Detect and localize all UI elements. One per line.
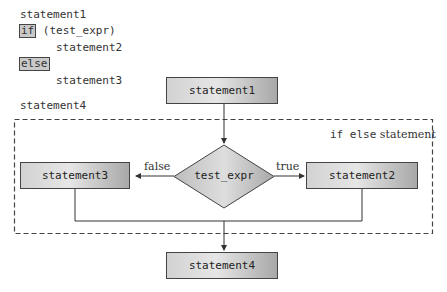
true-label: true xyxy=(276,160,299,173)
group-label-code: if else xyxy=(330,128,376,141)
statement4-box: statement4 xyxy=(166,252,278,279)
statement2-box: statement2 xyxy=(306,162,418,189)
statement1-box: statement1 xyxy=(166,77,278,104)
group-label-text: statement xyxy=(376,128,436,141)
group-label: if else statement xyxy=(330,128,436,141)
flowchart-connectors xyxy=(0,0,447,292)
decision-label: test_expr xyxy=(184,169,264,182)
statement3-box: statement3 xyxy=(20,162,130,189)
false-label: false xyxy=(144,160,170,173)
